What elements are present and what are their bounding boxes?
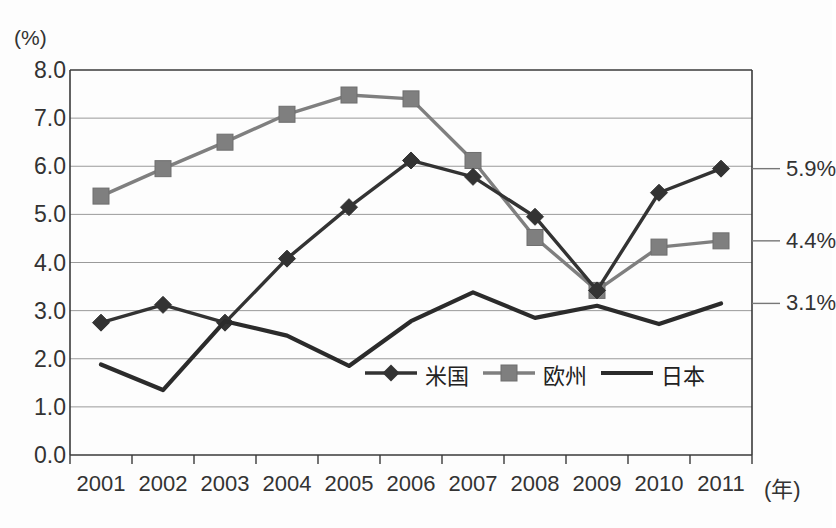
- data-point-marker-diamond: [651, 184, 668, 201]
- data-point-marker-square: [465, 152, 481, 168]
- data-point-marker-square: [527, 229, 543, 245]
- data-point-marker-square: [651, 239, 667, 255]
- legend-markers: [365, 356, 705, 390]
- legend-marker-diamond: [383, 365, 400, 382]
- data-point-marker-square: [341, 87, 357, 103]
- series-line-2: [101, 95, 721, 290]
- data-point-marker-square: [93, 188, 109, 204]
- data-point-marker-diamond: [713, 160, 730, 177]
- legend-marker-square: [501, 365, 517, 381]
- data-point-marker-square: [279, 106, 295, 122]
- data-point-marker-diamond: [465, 168, 482, 185]
- series-line-1: [101, 160, 721, 322]
- data-point-marker-square: [155, 161, 171, 177]
- data-point-marker-square: [403, 91, 419, 107]
- data-point-marker-diamond: [93, 314, 110, 331]
- data-point-marker-square: [713, 233, 729, 249]
- data-point-marker-square: [217, 134, 233, 150]
